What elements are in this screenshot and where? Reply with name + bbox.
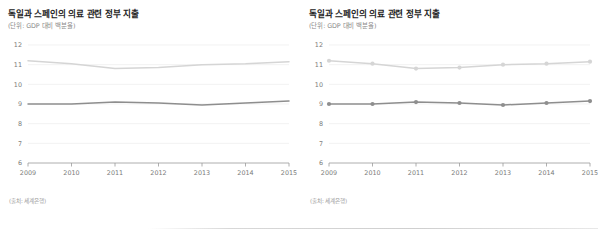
source-note: (출처: 세계은행) xyxy=(9,197,46,205)
x-axis-tick-label: 2010 xyxy=(63,169,79,177)
x-axis-tick-label: 2012 xyxy=(451,169,467,177)
data-point-marker xyxy=(327,102,331,106)
data-point-marker xyxy=(501,63,505,67)
data-point-marker xyxy=(588,60,592,64)
chart-panel-left: 독일과 스페인의 의료 관련 정부 지출 (단위: GDP 대비 백분율) 67… xyxy=(0,0,301,219)
page-title: 독일과 스페인의 의료 관련 정부 지출 xyxy=(8,9,293,20)
data-point-marker xyxy=(544,62,548,66)
y-axis-tick-label: 9 xyxy=(319,101,323,109)
y-axis-tick-label: 6 xyxy=(18,160,22,168)
y-axis-tick-label: 8 xyxy=(319,120,323,128)
plot-area-left: 67891011122009201020112012201320142015 xyxy=(8,39,293,189)
data-point-marker xyxy=(370,62,374,66)
y-axis-tick-label: 6 xyxy=(319,160,323,168)
chart-subtitle: (단위: GDP 대비 백분율) xyxy=(8,23,293,31)
data-point-marker xyxy=(414,100,418,104)
x-axis-tick-label: 2014 xyxy=(237,169,253,177)
chart-panel-right: 독일과 스페인의 의료 관련 정부 지출 (단위: GDP 대비 백분율) 67… xyxy=(301,0,602,219)
x-axis-tick-label: 2013 xyxy=(495,169,511,177)
data-point-marker xyxy=(370,102,374,106)
charts-container: 독일과 스페인의 의료 관련 정부 지출 (단위: GDP 대비 백분율) 67… xyxy=(0,0,602,219)
series-line xyxy=(28,101,289,105)
y-axis-tick-label: 11 xyxy=(14,61,22,69)
data-point-marker xyxy=(544,101,548,105)
x-axis-tick-label: 2012 xyxy=(150,169,166,177)
x-axis-tick-label: 2011 xyxy=(107,169,123,177)
chart-subtitle: (단위: GDP 대비 백분율) xyxy=(309,23,594,31)
data-point-marker xyxy=(327,59,331,63)
page-title: 독일과 스페인의 의료 관련 정부 지출 xyxy=(309,9,594,20)
y-axis-tick-label: 11 xyxy=(315,61,323,69)
y-axis-tick-label: 10 xyxy=(315,81,323,89)
data-point-marker xyxy=(501,103,505,107)
line-chart-left: 67891011122009201020112012201320142015 xyxy=(8,39,293,189)
plot-area-right: 67891011122009201020112012201320142015 xyxy=(309,39,594,189)
x-axis-tick-label: 2011 xyxy=(408,169,424,177)
y-axis-tick-label: 7 xyxy=(18,140,22,148)
y-axis-tick-label: 12 xyxy=(14,42,22,50)
bottom-divider xyxy=(148,228,598,229)
y-axis-tick-label: 7 xyxy=(319,140,323,148)
source-note: (출처: 세계은행) xyxy=(310,197,347,205)
data-point-marker xyxy=(588,99,592,103)
x-axis-tick-label: 2013 xyxy=(194,169,210,177)
data-point-marker xyxy=(414,67,418,71)
x-axis-tick-label: 2010 xyxy=(364,169,380,177)
x-axis-tick-label: 2015 xyxy=(281,169,297,177)
y-axis-tick-label: 10 xyxy=(14,81,22,89)
y-axis-tick-label: 9 xyxy=(18,101,22,109)
y-axis-tick-label: 12 xyxy=(315,42,323,50)
line-chart-right: 67891011122009201020112012201320142015 xyxy=(309,39,594,189)
data-point-marker xyxy=(457,66,461,70)
x-axis-tick-label: 2015 xyxy=(582,169,598,177)
x-axis-tick-label: 2014 xyxy=(538,169,554,177)
y-axis-tick-label: 8 xyxy=(18,120,22,128)
data-point-marker xyxy=(457,101,461,105)
x-axis-tick-label: 2009 xyxy=(321,169,337,177)
x-axis-tick-label: 2009 xyxy=(20,169,36,177)
